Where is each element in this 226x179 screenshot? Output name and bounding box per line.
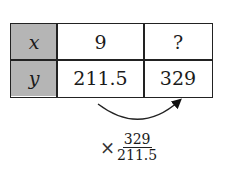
multiplier-annotation: × 329 211.5 [100,132,157,163]
times-sign: × [100,137,115,158]
numerator: 329 [123,132,152,148]
fraction: 329 211.5 [117,132,157,163]
denominator: 211.5 [117,148,157,163]
